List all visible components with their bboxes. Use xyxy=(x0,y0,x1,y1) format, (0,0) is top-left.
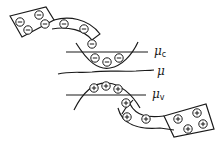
mu-symbol: μ xyxy=(157,64,165,78)
mu-c-symbol: μ xyxy=(154,44,162,58)
electron-reservoir xyxy=(10,7,54,37)
mu-v-subscript: v xyxy=(160,93,165,102)
hole-channel xyxy=(118,99,174,130)
mu-v-symbol: μ xyxy=(152,87,160,101)
chemical-potential-line xyxy=(58,70,154,74)
hole-reservoir xyxy=(164,104,214,137)
label-mu-c: μc xyxy=(154,45,166,59)
valence-band-hill xyxy=(66,82,146,110)
label-mu: μ xyxy=(157,65,165,77)
conduction-band-well xyxy=(66,42,148,68)
mu-c-subscript: c xyxy=(162,50,166,59)
energy-diagram xyxy=(0,0,221,147)
label-mu-v: μv xyxy=(152,88,165,102)
